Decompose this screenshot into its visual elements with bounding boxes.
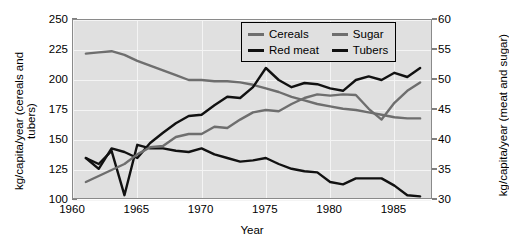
- y-axis-left-tick-label: 150: [49, 133, 68, 145]
- y-axis-right-tick-mark: [432, 19, 437, 20]
- legend-item-tubers: Tubers: [332, 43, 388, 57]
- y-axis-left-tick-label: 250: [49, 13, 68, 25]
- legend-item-red-meat: Red meat: [248, 43, 319, 57]
- legend-swatch-icon: [248, 49, 264, 52]
- x-axis-tick-label: 1975: [252, 203, 278, 215]
- y-axis-right-tick-label: 30: [438, 193, 451, 205]
- legend-swatch-icon: [248, 33, 264, 36]
- y-axis-left-title: kg/capita/year (cereals and tubers): [13, 33, 37, 209]
- legend-item-label: Sugar: [353, 27, 384, 41]
- legend-item-sugar: Sugar: [332, 27, 388, 41]
- legend-swatch-icon: [332, 49, 348, 52]
- y-axis-right-tick-mark: [432, 49, 437, 50]
- y-axis-right-tick-label: 40: [438, 133, 451, 145]
- y-axis-right-title: kg/capita/year (meat and sugar): [497, 27, 509, 203]
- y-axis-left-tick-label: 200: [49, 73, 68, 85]
- y-axis-right-tick-label: 55: [438, 43, 451, 55]
- legend-item-label: Tubers: [353, 43, 388, 57]
- x-axis-ticks: 196019651970197519801985: [72, 203, 432, 219]
- y-axis-left-tick-label: 175: [49, 103, 68, 115]
- chart-legend: CerealsSugarRed meatTubers: [241, 22, 396, 62]
- legend-item-cereals: Cereals: [248, 27, 319, 41]
- x-axis-tick-label: 1965: [123, 203, 149, 215]
- x-axis-title: Year: [72, 224, 432, 236]
- legend-item-label: Cereals: [269, 27, 309, 41]
- y-axis-right-tick-mark: [432, 79, 437, 80]
- gridline-horizontal: [73, 200, 431, 201]
- series-line-tubers: [86, 145, 420, 197]
- legend-item-label: Red meat: [269, 43, 319, 57]
- y-axis-right-tick-mark: [432, 169, 437, 170]
- y-axis-right-tick-mark: [432, 139, 437, 140]
- x-axis-tick-label: 1985: [381, 203, 407, 215]
- y-axis-right-tick-label: 60: [438, 13, 451, 25]
- x-axis-tick-label: 1970: [188, 203, 214, 215]
- y-axis-right-tick-mark: [432, 109, 437, 110]
- y-axis-right-tick-mark: [432, 199, 437, 200]
- x-axis-tick-label: 1980: [316, 203, 342, 215]
- y-axis-right-tick-label: 45: [438, 103, 451, 115]
- y-axis-right-tick-label: 35: [438, 163, 451, 175]
- y-axis-left-tick-label: 125: [49, 163, 68, 175]
- x-axis-tick-label: 1960: [59, 203, 85, 215]
- y-axis-right-ticks: 30354045505560: [438, 19, 478, 199]
- series-line-sugar: [86, 82, 420, 182]
- y-axis-right-tick-label: 50: [438, 73, 451, 85]
- y-axis-left-tick-label: 225: [49, 43, 68, 55]
- legend-swatch-icon: [332, 33, 348, 36]
